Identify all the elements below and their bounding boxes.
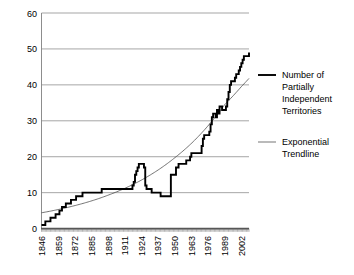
x-tick-label: 1924 [137, 236, 147, 256]
x-tick-label: 1963 [187, 236, 197, 256]
x-tick-label: 1872 [70, 236, 80, 256]
x-tick-label: 1976 [203, 236, 213, 256]
x-tick-label: 1911 [120, 236, 130, 255]
y-tick-label: 50 [27, 44, 37, 54]
y-tick-label: 60 [27, 9, 37, 19]
legend-label-line: Partially [282, 82, 315, 92]
x-tick-label: 2002 [237, 236, 247, 256]
y-tick-label: 0 [32, 224, 37, 234]
y-tick-label: 20 [27, 152, 37, 162]
legend-label-line: Trendline [282, 149, 319, 159]
x-tick-label: 1989 [220, 236, 230, 256]
x-tick-label: 1898 [104, 236, 114, 256]
chart-container: 60 50 40 30 20 10 0 18461859187218851898… [0, 0, 354, 275]
legend-label-line: Independent [282, 94, 333, 104]
x-tick-label: 1859 [54, 236, 64, 256]
x-tick-label: 1846 [37, 236, 47, 256]
x-tick-label: 1937 [153, 236, 163, 256]
legend-label-line: Number of [282, 70, 325, 80]
line-chart: 60 50 40 30 20 10 0 18461859187218851898… [0, 0, 354, 275]
x-tick-label: 1950 [170, 236, 180, 256]
y-tick-label: 30 [27, 116, 37, 126]
legend-label-line: Territories [282, 106, 322, 116]
x-tick-label: 1885 [87, 236, 97, 256]
y-tick-label: 10 [27, 188, 37, 198]
legend-label-line: Exponential [282, 137, 329, 147]
y-tick-label: 40 [27, 80, 37, 90]
